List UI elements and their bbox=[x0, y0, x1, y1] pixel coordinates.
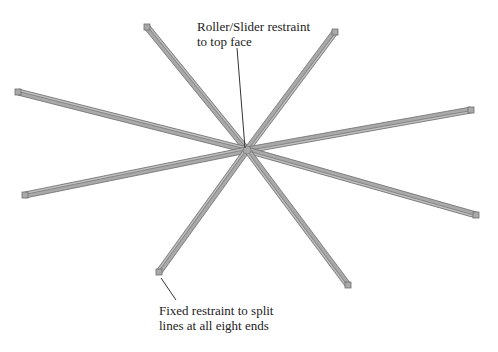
fixed-end-cap bbox=[473, 212, 479, 218]
fixed-restraint-label-line-2: lines at all eight ends bbox=[159, 318, 273, 333]
hub-joint bbox=[243, 146, 251, 154]
fixed-end-cap bbox=[345, 282, 351, 288]
beam-right-lower bbox=[246, 147, 479, 218]
beam-frame-drawing bbox=[0, 0, 498, 352]
diagram-canvas: Roller/Slider restraint to top face Fixe… bbox=[0, 0, 498, 352]
beam-bottom-right bbox=[245, 148, 351, 288]
fixed-end-cap bbox=[22, 192, 28, 198]
roller-slider-label: Roller/Slider restraint to top face bbox=[197, 19, 310, 49]
fixed-restraint-annotation-leader-line bbox=[161, 278, 176, 300]
fixed-restraint-label: Fixed restraint to split lines at all ei… bbox=[159, 303, 273, 333]
beam-left-upper bbox=[15, 89, 248, 153]
fixed-end-cap bbox=[156, 269, 162, 275]
fixed-end-cap bbox=[15, 89, 21, 95]
fixed-end-cap bbox=[144, 24, 150, 30]
roller-slider-label-line-1: Roller/Slider restraint bbox=[197, 19, 310, 34]
beam-right-upper bbox=[246, 107, 474, 153]
fixed-end-cap bbox=[468, 107, 474, 113]
roller-slider-label-line-2: to top face bbox=[197, 34, 310, 49]
roller-slider-annotation-leader-line bbox=[237, 48, 245, 148]
fixed-end-cap bbox=[332, 29, 338, 35]
fixed-restraint-label-line-1: Fixed restraint to split bbox=[159, 303, 273, 318]
